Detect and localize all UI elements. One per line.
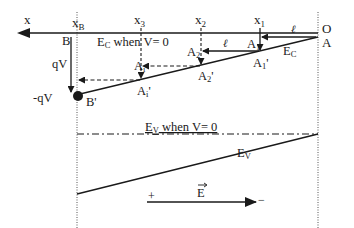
x-axis-label: x (24, 12, 31, 27)
ec-when-v0-label: EC when V= 0 (97, 35, 169, 50)
ev-line (77, 134, 318, 194)
point-b-label: B (62, 34, 70, 48)
point-a1-label: A1 (247, 37, 260, 52)
point-a1-prime-label: A1' (253, 56, 269, 71)
point-b-prime-label: B' (86, 95, 97, 109)
origin-label-a: A (322, 35, 332, 50)
position-label-x1: x1 (254, 12, 265, 29)
point-a2-label: A2 (187, 45, 200, 60)
position-label-x3: x3 (134, 12, 146, 29)
electron-dot-b-prime (73, 91, 83, 101)
ec-label: EC (283, 44, 297, 59)
qv-label: qV (52, 57, 67, 71)
position-label-xb: xB (72, 15, 85, 32)
neg-qv-label: -qV (33, 91, 52, 105)
ev-when-v0-label: EV when V= 0 (145, 120, 217, 135)
position-label-x2: x2 (195, 12, 206, 29)
x-axis-arrow-icon (17, 28, 30, 38)
ell-label-mid: ℓ (223, 37, 228, 49)
field-plus-sign: + (148, 189, 155, 203)
ell-label-top: ℓ (291, 23, 296, 35)
point-ai-label: Ai (134, 59, 146, 74)
field-label: E (197, 186, 205, 200)
origin-label-o: O (322, 21, 331, 36)
point-ai-prime-label: Ai' (137, 84, 151, 99)
field-minus-sign: − (258, 193, 265, 207)
ev-label: EV (237, 146, 252, 161)
point-a2-prime-label: A2' (198, 69, 214, 84)
band-diagram: x O A xB x3 x2 x1 EC when V= 0 EC ℓ ℓ A1… (0, 0, 354, 228)
